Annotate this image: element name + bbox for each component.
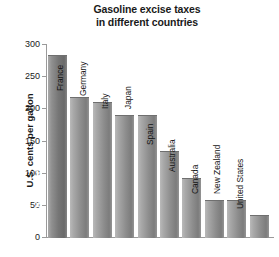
bar-label-germany: Germany: [74, 80, 93, 99]
bar-label-australia: Australia: [163, 156, 182, 175]
bar-group: Canada: [205, 45, 224, 238]
bars-group: United KingdomFranceGermanyItalyJapanSpa…: [48, 44, 274, 238]
y-tick-label: 0: [35, 232, 40, 242]
bar-label-spain: Spain: [141, 129, 160, 148]
y-tick-label: 300: [25, 39, 40, 49]
bar-label-new-zealand: New Zealand: [208, 178, 227, 197]
bar-chart-figure: Gasoline excise taxes in different count…: [0, 0, 279, 257]
chart-title-line-1: Gasoline excise taxes: [62, 3, 232, 16]
bar-label-united-kingdom: United Kingdom: [29, 205, 48, 224]
bar-france: [70, 97, 89, 238]
y-tick-mark: [42, 76, 46, 77]
y-tick-label: 200: [25, 103, 40, 113]
y-tick-mark: [42, 141, 46, 142]
bar-germany: [93, 102, 112, 238]
bar-group: Italy: [115, 45, 134, 238]
bar-label-united-states: United States: [231, 193, 250, 212]
bar-group: Germany: [93, 45, 112, 238]
y-tick-label: 250: [25, 71, 40, 81]
bar-group: Australia: [182, 45, 201, 238]
y-tick-mark: [42, 44, 46, 45]
chart-title-line-2: in different countries: [62, 16, 232, 29]
bar-label-italy: Italy: [96, 93, 115, 112]
y-tick-mark: [42, 237, 46, 238]
bar-label-japan: Japan: [119, 93, 138, 112]
bar-italy: [115, 115, 134, 238]
bar-canada: [205, 200, 224, 238]
y-tick-mark: [42, 108, 46, 109]
y-tick-label: 150: [25, 136, 40, 146]
plot-area: 300250200150100500 United KingdomFranceG…: [46, 44, 274, 242]
bar-united-states: [250, 215, 269, 238]
chart-title: Gasoline excise taxes in different count…: [62, 3, 232, 28]
bar-group: United States: [250, 45, 269, 238]
bar-label-france: France: [51, 75, 70, 94]
bar-label-canada: Canada: [186, 178, 205, 197]
